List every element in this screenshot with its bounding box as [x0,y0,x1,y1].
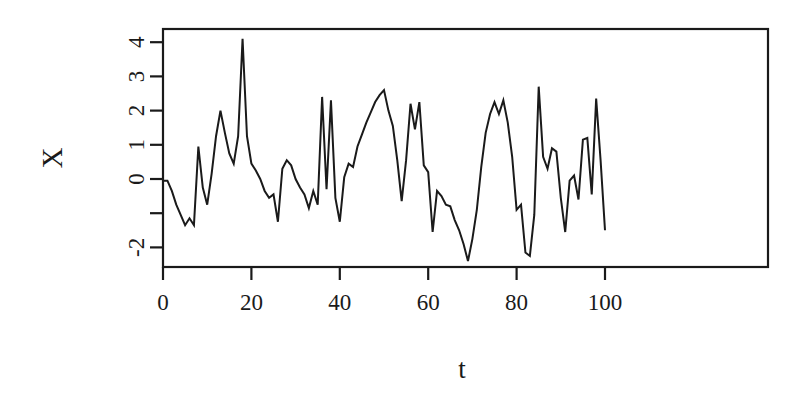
y-axis-tick-label: -2 [124,238,149,257]
x-axis-tick-labels: 020406080100 [157,290,622,315]
series-line [163,39,605,261]
time-series-figure: -201234 020406080100 X t [0,0,810,397]
plot-canvas: -201234 020406080100 X t [0,0,810,397]
y-axis-tick-label: 2 [124,105,149,117]
x-axis-tick-label: 100 [588,290,623,315]
x-axis-tick-label: 0 [157,290,169,315]
y-axis-tick-labels: -201234 [124,36,149,257]
y-axis-tick-label: 0 [124,173,149,185]
plot-frame [163,29,768,267]
y-axis-title: X [36,147,68,168]
y-axis-ticks [150,42,163,247]
y-axis-tick-label: 3 [124,71,149,83]
x-axis-title: t [458,354,466,384]
x-axis-tick-label: 80 [505,290,528,315]
x-axis-tick-label: 60 [417,290,440,315]
x-axis-tick-label: 40 [328,290,351,315]
y-axis-tick-label: 4 [124,36,149,48]
x-axis-ticks [163,267,605,280]
y-axis-tick-label: 1 [124,139,149,151]
x-axis-tick-label: 20 [240,290,263,315]
